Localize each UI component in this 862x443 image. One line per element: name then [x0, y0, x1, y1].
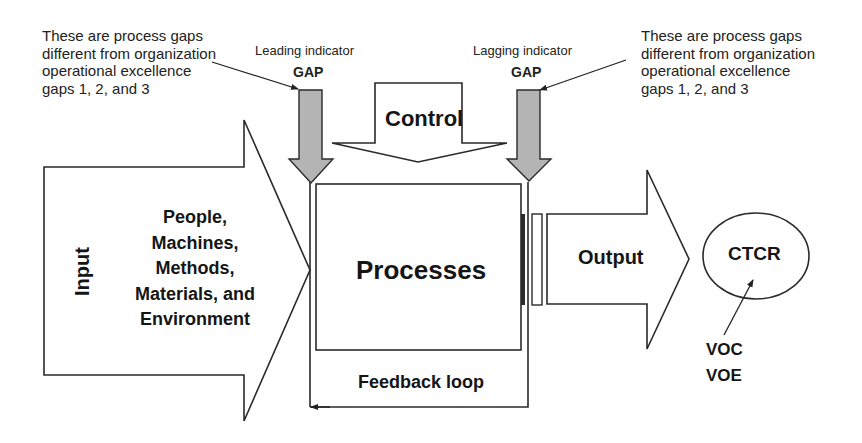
- input-item-methods: Methods,: [110, 256, 280, 282]
- input-label: Input: [71, 242, 94, 302]
- input-item-machines: Machines,: [110, 231, 280, 257]
- lagging-gap-label: GAP: [511, 64, 541, 80]
- input-item-materials: Materials, and: [110, 282, 280, 308]
- ctcr-label: CTCR: [728, 243, 781, 265]
- output-label: Output: [578, 246, 644, 269]
- voice-labels: VOC VOE: [706, 337, 743, 389]
- voc-label: VOC: [706, 337, 743, 363]
- right-note-pointer: [540, 60, 626, 90]
- leading-indicator-label: Leading indicator: [255, 43, 354, 58]
- lagging-gap-arrow: [507, 90, 551, 181]
- control-label: Control: [385, 106, 463, 132]
- input-item-people: People,: [110, 205, 280, 231]
- feedback-loop-label: Feedback loop: [358, 372, 484, 393]
- left-gap-note: These are process gaps different from or…: [42, 27, 216, 97]
- voe-label: VOE: [706, 363, 743, 389]
- output-bar-filled: [521, 214, 525, 305]
- leading-gap-label: GAP: [293, 64, 323, 80]
- output-bar-hollow: [532, 214, 542, 305]
- lagging-indicator-label: Lagging indicator: [473, 43, 572, 58]
- input-item-environment: Environment: [110, 307, 280, 333]
- processes-label: Processes: [356, 255, 486, 286]
- input-items: People, Machines, Methods, Materials, an…: [110, 205, 280, 333]
- right-gap-note: These are process gaps different from or…: [641, 27, 815, 97]
- leading-gap-arrow: [289, 90, 333, 183]
- left-note-pointer: [212, 62, 298, 89]
